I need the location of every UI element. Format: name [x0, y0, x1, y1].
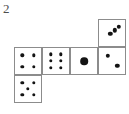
die-face-six	[42, 47, 70, 75]
pip-dot-icon	[115, 63, 119, 67]
pip-dot-icon	[49, 66, 52, 69]
pip-dot-icon	[59, 53, 62, 56]
pip-dot-icon	[49, 53, 52, 56]
die-face-four	[14, 47, 42, 75]
pip-dot-icon	[26, 87, 29, 90]
die-face-five	[14, 75, 42, 103]
pip-dot-icon	[21, 65, 24, 68]
pip-dot-icon	[117, 25, 121, 29]
pip-dot-icon	[32, 54, 35, 57]
pip-dot-icon	[105, 54, 109, 58]
pip-dot-icon	[49, 59, 52, 62]
die-face-one	[70, 47, 98, 75]
dice-net-figure: 2	[0, 0, 129, 114]
pip-dot-icon	[59, 66, 62, 69]
pip-dot-icon	[21, 81, 24, 84]
die-face-two	[98, 47, 126, 75]
figure-number-label: 2	[3, 1, 10, 16]
pip-dot-icon	[32, 81, 35, 84]
pip-dot-icon	[112, 28, 116, 32]
pip-dot-icon	[80, 57, 88, 65]
pip-dot-icon	[32, 65, 35, 68]
pip-dot-icon	[59, 59, 62, 62]
pip-dot-icon	[108, 32, 112, 36]
dice-net-grid	[14, 19, 126, 103]
pip-dot-icon	[21, 93, 24, 96]
pip-dot-icon	[21, 54, 24, 57]
pip-dot-icon	[32, 93, 35, 96]
die-face-three	[98, 19, 126, 47]
